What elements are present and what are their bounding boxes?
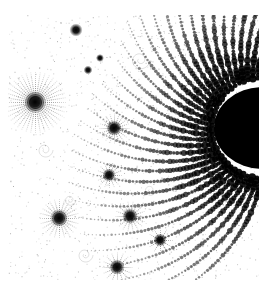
- fractal-image: [0, 0, 277, 292]
- fractal-canvas: [0, 0, 277, 292]
